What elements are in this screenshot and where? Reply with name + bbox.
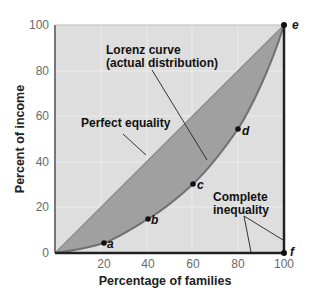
equality-label: Perfect equality [81, 116, 171, 130]
y-tick-100: 100 [29, 18, 49, 32]
inequality-label-line1: Complete [213, 190, 268, 204]
x-tick-80: 80 [231, 257, 245, 271]
lorenz-label-line2: (actual distribution) [106, 56, 218, 70]
y-axis-title: Percent of income [13, 85, 27, 193]
x-tick-100: 100 [274, 257, 294, 271]
y-tick-0: 0 [42, 246, 49, 260]
lorenz-label-line1: Lorenz curve [106, 43, 181, 57]
x-tick-60: 60 [186, 257, 200, 271]
y-tick-20: 20 [36, 200, 50, 214]
point-d-label: d [242, 124, 250, 138]
point-f-label: f [290, 245, 295, 259]
point-e-label: e [292, 18, 299, 32]
point-a [101, 240, 107, 246]
y-tick-60: 60 [36, 109, 50, 123]
point-e [281, 22, 287, 28]
y-ticks: 0 20 40 60 80 100 [29, 18, 49, 260]
x-tick-20: 20 [97, 257, 111, 271]
inequality-label-line2: inequality [213, 203, 269, 217]
point-c-label: c [197, 178, 204, 192]
x-axis-title: Percentage of families [99, 274, 232, 288]
x-ticks: 20 40 60 80 100 [97, 257, 294, 271]
y-tick-40: 40 [36, 155, 50, 169]
point-a-label: a [107, 237, 114, 251]
point-f [281, 250, 287, 256]
point-b-label: b [151, 213, 158, 227]
lorenz-chart: 0 20 40 60 80 100 20 40 60 80 100 Percen… [0, 0, 314, 297]
point-d [235, 126, 241, 132]
point-c [190, 181, 196, 187]
y-tick-80: 80 [36, 64, 50, 78]
point-b [145, 216, 151, 222]
x-tick-40: 40 [141, 257, 155, 271]
